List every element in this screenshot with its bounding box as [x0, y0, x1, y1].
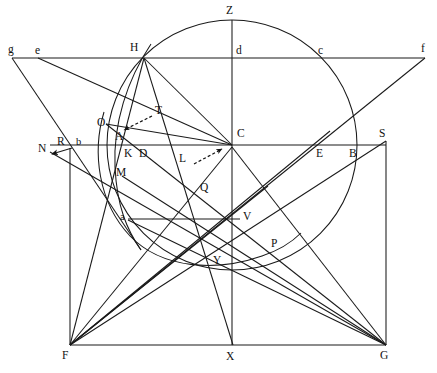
point-label-K: K	[124, 148, 132, 160]
line-M-to-G	[122, 176, 386, 345]
pointer-arrow-N	[52, 148, 72, 154]
point-label-A: A	[115, 131, 123, 143]
point-label-f: f	[421, 43, 425, 55]
point-label-H: H	[130, 42, 138, 54]
point-label-O: O	[97, 117, 105, 129]
chord-network	[12, 58, 425, 345]
point-label-N: N	[38, 143, 46, 155]
point-label-L: L	[179, 153, 186, 165]
point-label-R: R	[57, 136, 65, 148]
point-label-E: E	[316, 148, 323, 160]
line-C-to-G	[232, 147, 386, 345]
figure-canvas	[0, 0, 437, 373]
point-label-Z: Z	[226, 5, 233, 17]
point-label-T: T	[155, 105, 162, 117]
point-label-F: F	[62, 350, 68, 362]
point-label-b: b	[76, 137, 81, 148]
point-label-P: P	[271, 238, 277, 250]
point-label-g: g	[8, 44, 14, 56]
point-label-Y: Y	[213, 255, 221, 267]
line-N-to-G	[50, 152, 386, 345]
frame-lines	[12, 20, 425, 345]
point-label-c: c	[318, 45, 323, 57]
point-label-M: M	[116, 167, 126, 179]
point-label-C: C	[237, 128, 245, 140]
geometry-diagram: g e H d c f Z T O C S A N R b K D L E B …	[0, 0, 437, 373]
point-label-S: S	[379, 128, 385, 140]
point-label-a: a	[120, 212, 125, 223]
line-C-to-F	[70, 147, 232, 345]
point-label-V: V	[243, 211, 251, 223]
point-label-Q: Q	[200, 182, 208, 194]
point-label-e: e	[35, 45, 40, 57]
pointer-arrow-L	[194, 149, 222, 164]
line-H-to-F	[70, 58, 144, 345]
point-label-d: d	[236, 45, 242, 57]
point-label-D: D	[139, 148, 147, 160]
point-label-X: X	[226, 351, 234, 363]
line-O-to-C	[106, 124, 232, 145]
point-label-B: B	[349, 148, 357, 160]
point-label-G: G	[380, 350, 388, 362]
line-F-to-V-extended	[70, 186, 268, 345]
line-O-to-G	[106, 124, 386, 345]
line-H-to-Y-extended	[144, 58, 233, 345]
